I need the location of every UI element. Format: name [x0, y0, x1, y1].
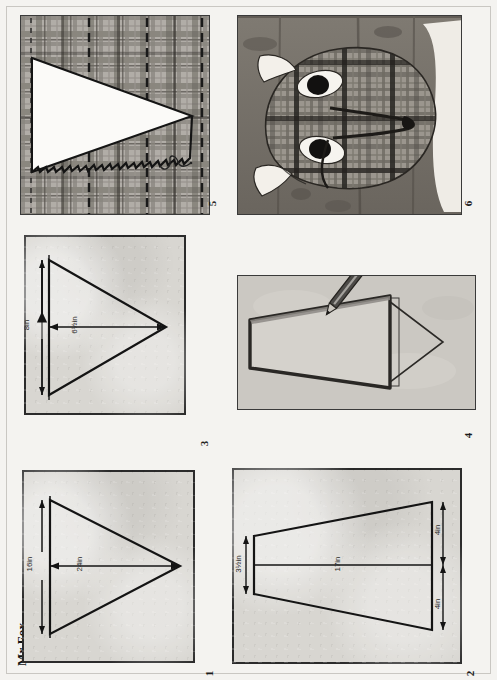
- panel-6-photo: [237, 15, 462, 215]
- tracing-template-illustration: [238, 276, 476, 410]
- panel-2-dim-4in-lower: 4in: [434, 599, 442, 610]
- body-pattern-drawing: [22, 470, 195, 663]
- panel-6-number: 6: [463, 201, 474, 207]
- panel-1: 16in 24in: [22, 470, 195, 663]
- panel-4-photo: [237, 275, 476, 410]
- panel-5-photo: [20, 15, 210, 215]
- panel-4: [237, 275, 476, 410]
- panel-1-number: 1: [204, 671, 215, 677]
- scanned-page: Mr Fox: [0, 0, 497, 680]
- panel-3-dim-8in: 8in: [24, 320, 31, 331]
- panel-2-dim-3half-in: 3½in: [235, 555, 243, 572]
- panel-2-dim-17in: 17in: [334, 556, 342, 571]
- tail-pattern-drawing: [232, 468, 462, 664]
- panel-3: 8in 6½in: [24, 235, 186, 415]
- panel-1-dim-16in: 16in: [26, 556, 34, 571]
- panel-2: 3½in 17in 4in 4in: [232, 468, 462, 664]
- panel-3-dim-6half-in: 6½in: [71, 316, 79, 333]
- ear-pattern-drawing: [24, 235, 186, 415]
- panel-6: [237, 15, 462, 215]
- panel-5: [20, 15, 210, 215]
- panel-3-number: 3: [199, 441, 210, 447]
- panel-2-dim-4in-upper: 4in: [434, 525, 442, 536]
- panel-1-dim-24in: 24in: [76, 556, 84, 571]
- panel-5-number: 5: [207, 201, 218, 207]
- finished-fox-head-illustration: [238, 16, 462, 215]
- plaid-fabric-illustration: [21, 16, 210, 215]
- panel-2-number: 2: [465, 671, 476, 677]
- panel-4-number: 4: [463, 433, 474, 439]
